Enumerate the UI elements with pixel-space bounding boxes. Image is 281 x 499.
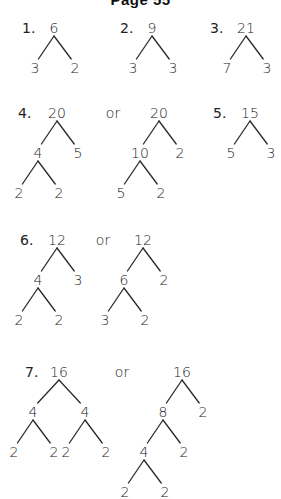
tree-node: 4 — [29, 405, 38, 419]
tree-root: 20 — [48, 106, 66, 120]
tree-branch — [250, 121, 267, 144]
tree-branch — [22, 161, 38, 184]
tree-node: 2 — [55, 186, 64, 200]
tree-branch — [57, 248, 74, 271]
tree-root: 20 — [150, 106, 168, 120]
tree-node: 2 — [102, 445, 111, 459]
factor-tree-edges — [0, 0, 281, 499]
tree-node: 2 — [15, 313, 24, 327]
tree-branch — [246, 36, 263, 59]
problem-number: 4. — [18, 106, 31, 120]
tree-branch — [147, 420, 163, 443]
problem-number: 3. — [210, 21, 223, 35]
tree-branch — [38, 161, 55, 184]
tree-branch — [143, 248, 160, 271]
tree-branch — [41, 121, 57, 144]
tree-branch — [22, 288, 38, 311]
tree-node: 3 — [129, 61, 138, 75]
tree-root: 9 — [148, 21, 157, 35]
tree-node: 3 — [267, 146, 276, 160]
tree-root: 16 — [173, 365, 191, 379]
tree-node: 2 — [50, 445, 59, 459]
tree-node: 4 — [34, 146, 43, 160]
tree-branch — [143, 121, 159, 144]
tree-branch — [38, 36, 54, 59]
tree-node: 2 — [199, 405, 208, 419]
tree-branch — [136, 36, 152, 59]
problem-number: 2. — [120, 21, 133, 35]
tree-branch — [85, 420, 102, 443]
tree-root: 21 — [237, 21, 255, 35]
tree-node: 2 — [121, 485, 130, 499]
tree-node: 2 — [15, 186, 24, 200]
tree-branch — [54, 36, 71, 59]
tree-node: 8 — [159, 405, 168, 419]
answer-key-page: Page 55 1.6322.9333.21734.or204225201052… — [0, 0, 281, 499]
tree-branch — [182, 380, 199, 403]
tree-node: 3 — [31, 61, 40, 75]
tree-node: 2 — [10, 445, 19, 459]
tree-branch — [124, 161, 140, 184]
tree-branch — [41, 248, 57, 271]
tree-node: 3 — [74, 273, 83, 287]
tree-node: 2 — [71, 61, 80, 75]
tree-node: 4 — [140, 445, 149, 459]
tree-node: 2 — [161, 485, 170, 499]
or-label: or — [106, 106, 120, 120]
tree-node: 4 — [81, 405, 90, 419]
tree-node: 3 — [101, 313, 110, 327]
tree-node: 2 — [160, 273, 169, 287]
tree-node: 2 — [176, 146, 185, 160]
tree-node: 3 — [169, 61, 178, 75]
tree-node: 10 — [131, 146, 149, 160]
tree-branch — [144, 460, 161, 483]
tree-node: 2 — [141, 313, 150, 327]
tree-branch — [108, 288, 124, 311]
problem-number: 1. — [22, 21, 35, 35]
tree-branch — [163, 420, 180, 443]
tree-node: 2 — [55, 313, 64, 327]
or-label: or — [115, 365, 129, 379]
or-label: or — [96, 233, 110, 247]
tree-node: 6 — [120, 273, 129, 287]
tree-node: 3 — [263, 61, 272, 75]
tree-branch — [234, 121, 250, 144]
tree-node: 4 — [34, 273, 43, 287]
tree-branch — [166, 380, 182, 403]
problem-number: 6. — [20, 233, 33, 247]
tree-branch — [124, 288, 141, 311]
tree-root: 6 — [50, 21, 59, 35]
tree-node: 5 — [117, 186, 126, 200]
tree-branch — [17, 420, 33, 443]
tree-branch — [140, 161, 157, 184]
tree-root: 15 — [241, 106, 259, 120]
tree-node: 5 — [74, 146, 83, 160]
tree-branch — [38, 288, 55, 311]
problem-number: 5. — [213, 106, 226, 120]
tree-node: 2 — [180, 445, 189, 459]
tree-branch — [230, 36, 246, 59]
tree-branch — [152, 36, 169, 59]
tree-branch — [159, 121, 176, 144]
tree-node: 2 — [157, 186, 166, 200]
tree-branch — [57, 121, 74, 144]
tree-root: 12 — [134, 233, 152, 247]
tree-branch — [38, 380, 59, 403]
tree-root: 16 — [50, 365, 68, 379]
problem-number: 7. — [25, 365, 38, 379]
tree-node: 2 — [62, 445, 71, 459]
tree-branch — [59, 380, 80, 403]
tree-branch — [128, 460, 144, 483]
tree-branch — [69, 420, 85, 443]
tree-node: 5 — [227, 146, 236, 160]
tree-branch — [33, 420, 50, 443]
tree-branch — [127, 248, 143, 271]
tree-node: 7 — [223, 61, 232, 75]
tree-root: 12 — [48, 233, 66, 247]
